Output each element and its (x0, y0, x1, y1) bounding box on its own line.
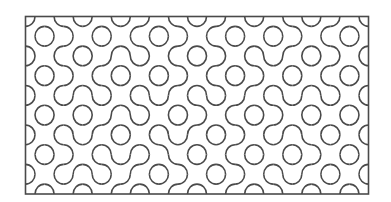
truchet-tile (140, 174, 159, 194)
truchet-tile (83, 155, 102, 175)
truchet-tile (197, 76, 216, 96)
truchet-tile (102, 155, 121, 175)
truchet-tile (26, 17, 45, 37)
truchet-tile (254, 76, 273, 96)
truchet-tile (45, 135, 64, 155)
truchet-tile (292, 56, 311, 76)
truchet-tile (178, 115, 197, 135)
truchet-pattern-figure (0, 0, 391, 202)
truchet-tile (273, 36, 292, 56)
truchet-tile (45, 36, 64, 56)
truchet-tile (273, 155, 292, 175)
truchet-tile (178, 17, 197, 37)
truchet-tile (83, 115, 102, 135)
truchet-tile (83, 36, 102, 56)
truchet-tile (64, 174, 83, 194)
truchet-tile (273, 56, 292, 76)
truchet-tile (121, 36, 140, 56)
truchet-tile (311, 95, 330, 115)
truchet-tile (330, 17, 349, 37)
truchet-tile (254, 56, 273, 76)
truchet-tile (197, 95, 216, 115)
truchet-tile (254, 115, 273, 135)
truchet-tile (311, 135, 330, 155)
truchet-tile (45, 17, 64, 37)
truchet-tile (64, 115, 83, 135)
truchet-tile (311, 115, 330, 135)
truchet-tile (83, 135, 102, 155)
truchet-tile (349, 36, 368, 56)
truchet-tile (330, 36, 349, 56)
truchet-tile (45, 56, 64, 76)
truchet-tile (216, 115, 235, 135)
truchet-tile (140, 56, 159, 76)
truchet-tile (349, 155, 368, 175)
truchet-tile (330, 95, 349, 115)
truchet-tile (349, 56, 368, 76)
truchet-tile (197, 135, 216, 155)
truchet-tile (330, 174, 349, 194)
truchet-tile (159, 56, 178, 76)
truchet-tile (273, 135, 292, 155)
truchet-tile (254, 174, 273, 194)
truchet-tile (83, 76, 102, 96)
truchet-tile (254, 36, 273, 56)
truchet-tile (349, 76, 368, 96)
truchet-tile (121, 95, 140, 115)
truchet-tile (121, 135, 140, 155)
truchet-tile (83, 56, 102, 76)
truchet-tile (140, 135, 159, 155)
truchet-tile (64, 135, 83, 155)
truchet-tile (121, 76, 140, 96)
truchet-tile (216, 56, 235, 76)
truchet-tile (121, 174, 140, 194)
truchet-tile (64, 56, 83, 76)
truchet-tile (26, 155, 45, 175)
truchet-tile (159, 155, 178, 175)
truchet-tile (311, 36, 330, 56)
truchet-tile (178, 174, 197, 194)
truchet-tile (330, 56, 349, 76)
truchet-tile (64, 76, 83, 96)
truchet-tile (254, 17, 273, 37)
truchet-tile (178, 56, 197, 76)
truchet-tile (273, 174, 292, 194)
truchet-tile (102, 174, 121, 194)
truchet-tile (102, 95, 121, 115)
truchet-tile (235, 95, 254, 115)
truchet-tile (216, 76, 235, 96)
truchet-tile (102, 135, 121, 155)
truchet-tile (178, 76, 197, 96)
truchet-tile (292, 76, 311, 96)
truchet-tile (273, 115, 292, 135)
truchet-tile (159, 76, 178, 96)
truchet-tile (140, 115, 159, 135)
truchet-tile (254, 155, 273, 175)
truchet-tile (26, 36, 45, 56)
truchet-tile (26, 115, 45, 135)
truchet-tile (26, 76, 45, 96)
truchet-tile (197, 174, 216, 194)
truchet-tile (330, 135, 349, 155)
truchet-tile (64, 95, 83, 115)
truchet-tile (216, 36, 235, 56)
truchet-tile (292, 95, 311, 115)
truchet-tile (292, 155, 311, 175)
truchet-tile (292, 17, 311, 37)
truchet-tile (102, 17, 121, 37)
truchet-tile (64, 17, 83, 37)
truchet-tile (102, 115, 121, 135)
truchet-tile (159, 36, 178, 56)
truchet-tile (83, 174, 102, 194)
truchet-tile (140, 76, 159, 96)
truchet-tile (254, 135, 273, 155)
truchet-tile (273, 76, 292, 96)
truchet-tile (83, 17, 102, 37)
truchet-tile (121, 115, 140, 135)
truchet-tile (197, 56, 216, 76)
truchet-tile (292, 115, 311, 135)
truchet-tile (349, 174, 368, 194)
truchet-tile (26, 56, 45, 76)
truchet-tile (178, 155, 197, 175)
truchet-tile (330, 76, 349, 96)
